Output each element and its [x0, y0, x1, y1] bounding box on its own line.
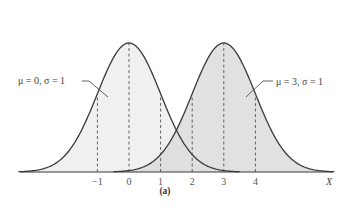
tick-label: −1: [92, 176, 103, 187]
curves-layer: [18, 43, 334, 172]
tick-labels: −101234: [92, 176, 258, 187]
tick-label: 3: [221, 176, 226, 187]
tick-label: 2: [190, 176, 195, 187]
normal-distributions-figure: −101234 X (a) μ = 0, σ = 1 μ = 3, σ = 1: [0, 0, 351, 210]
curve-label-right: μ = 3, σ = 1: [276, 76, 323, 87]
tick-label: 0: [127, 176, 132, 187]
tick-label: 4: [253, 176, 258, 187]
axis-label-x: X: [325, 176, 333, 187]
figure-caption: (a): [159, 186, 170, 197]
curve-label-left: μ = 0, σ = 1: [18, 75, 65, 86]
